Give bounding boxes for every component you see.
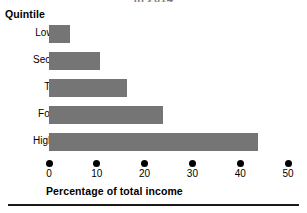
- bar: [49, 79, 127, 97]
- plot-area: LowestSecondThirdFourthHighest: [0, 24, 307, 166]
- tick-dot-icon: [141, 160, 148, 167]
- x-axis-tick-label: 30: [178, 168, 206, 179]
- bottom-divider: [8, 204, 299, 206]
- x-axis-title: Percentage of total income: [46, 185, 183, 197]
- bar-row: Second: [0, 51, 307, 73]
- tick-dot-icon: [93, 160, 100, 167]
- x-axis-tick-label: 10: [83, 168, 111, 179]
- bar: [49, 25, 70, 43]
- x-axis-tick-label: 0: [35, 168, 63, 179]
- bar-row: Lowest: [0, 24, 307, 46]
- bar-row: Fourth: [0, 105, 307, 127]
- tick-dot-icon: [189, 160, 196, 167]
- chart-title: in 2014: [0, 0, 307, 2]
- x-axis-tick-label: 20: [131, 168, 159, 179]
- bar-row: Highest: [0, 132, 307, 154]
- x-axis-tick-label: 50: [274, 168, 302, 179]
- bar-row: Third: [0, 78, 307, 100]
- bar: [49, 106, 163, 124]
- tick-dot-icon: [285, 160, 292, 167]
- tick-dot-icon: [237, 160, 244, 167]
- bar: [49, 52, 100, 70]
- bar: [49, 133, 258, 151]
- x-axis-tick-label: 40: [226, 168, 254, 179]
- x-axis: 01020304050: [0, 160, 307, 186]
- y-axis-title: Quintile: [5, 8, 45, 20]
- tick-dot-icon: [46, 160, 53, 167]
